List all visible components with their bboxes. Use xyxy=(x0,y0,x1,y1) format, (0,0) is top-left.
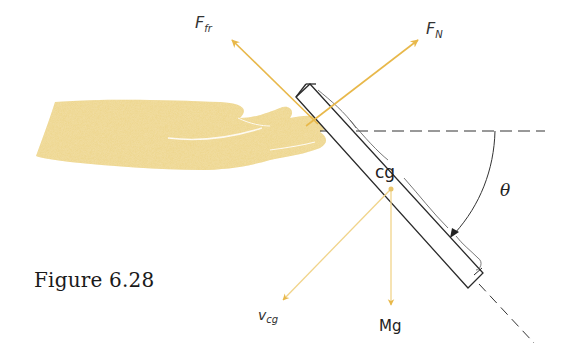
friction-force-label: Ffr xyxy=(195,13,213,34)
forearm-shape xyxy=(36,100,327,170)
board-axis-extension xyxy=(479,284,534,343)
normal-force-label: FN xyxy=(426,19,443,40)
normal-force-arrow xyxy=(306,40,418,126)
center-of-gravity-dot xyxy=(389,187,394,192)
weight-label: Mg xyxy=(379,317,401,335)
center-of-gravity-label: cg xyxy=(375,162,395,182)
velocity-cg-arrow xyxy=(283,190,390,300)
velocity-cg-label: vcg xyxy=(258,307,278,325)
hand-illustration xyxy=(36,100,327,170)
figure-caption: Figure 6.28 xyxy=(34,268,154,292)
angle-arc xyxy=(455,131,495,233)
physics-diagram: θ Ffr FN cg vcg Mg xyxy=(0,0,570,352)
angle-label: θ xyxy=(500,180,510,200)
